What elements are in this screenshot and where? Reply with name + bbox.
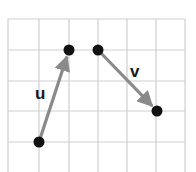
- vector-u-end-point: [64, 45, 75, 56]
- vector-u-label: u: [35, 84, 45, 103]
- vector-v-end-point: [152, 106, 163, 117]
- vector-v-start-point: [93, 45, 104, 56]
- vector-v-label: v: [130, 62, 140, 81]
- vector-diagram: uv: [0, 0, 196, 172]
- vector-u-start-point: [34, 137, 45, 148]
- vector-v-arrow: [98, 50, 152, 106]
